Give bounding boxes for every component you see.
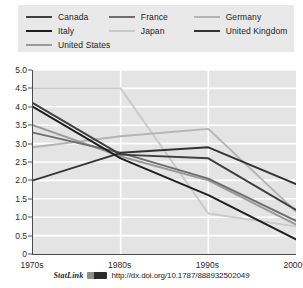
legend-item-italy: Italy	[26, 26, 109, 36]
line-chart-figure: Canada France Germany Italy Japan	[0, 0, 303, 288]
legend-label-canada: Canada	[58, 12, 88, 22]
y-axis-tick-label: 0.5	[15, 231, 27, 241]
plot-container: 00.51.01.52.02.53.03.54.04.55.0 1970s198…	[0, 58, 303, 258]
series-lines	[33, 70, 296, 254]
y-axis-tick-label: 4.0	[15, 102, 27, 112]
legend-label-france: France	[141, 12, 168, 22]
y-axis-tick-label: 3.0	[15, 139, 27, 149]
legend-swatch-united-kingdom	[194, 30, 220, 32]
legend-row: Italy Japan United Kingdom	[26, 24, 290, 38]
legend-item-canada: Canada	[26, 12, 109, 22]
legend-swatch-united-states	[26, 44, 52, 46]
legend-item-united-states: United States	[26, 40, 112, 50]
statlink-url[interactable]: http://dx.doi.org/10.1787/888932502049	[111, 271, 249, 280]
y-axis-tick-label: 2.0	[15, 175, 27, 185]
legend-item-united-kingdom: United Kingdom	[194, 26, 290, 36]
legend-label-italy: Italy	[58, 26, 74, 36]
legend-swatch-italy	[26, 30, 52, 32]
y-axis-tick-label: 4.5	[15, 83, 27, 93]
statlink-footer: StatLink http://dx.doi.org/10.1787/88893…	[0, 266, 303, 284]
legend-label-germany: Germany	[226, 12, 262, 22]
legend-label-united-kingdom: United Kingdom	[226, 26, 288, 36]
legend-item-france: France	[109, 12, 194, 22]
legend-item-germany: Germany	[194, 12, 290, 22]
y-axis-tick-label: 0	[22, 249, 27, 259]
statlink-icon	[87, 272, 107, 279]
y-axis-tick-label: 1.0	[15, 212, 27, 222]
plot-area	[32, 70, 296, 255]
legend-row: Canada France Germany	[26, 10, 290, 24]
series-line-canada	[33, 103, 296, 210]
legend-item-japan: Japan	[109, 26, 194, 36]
y-axis: 00.51.01.52.02.53.03.54.04.55.0	[0, 58, 31, 258]
y-axis-tick-label: 3.5	[15, 120, 27, 130]
legend-swatch-japan	[109, 30, 135, 32]
y-axis-tick-label: 1.5	[15, 194, 27, 204]
legend-swatch-germany	[194, 16, 220, 18]
legend-swatch-canada	[26, 16, 52, 18]
y-axis-tick-label: 2.5	[15, 157, 27, 167]
legend-swatch-france	[109, 16, 135, 18]
y-axis-tick-label: 5.0	[15, 65, 27, 75]
legend-label-japan: Japan	[141, 26, 165, 36]
legend-row: United States	[26, 38, 290, 52]
chart-legend: Canada France Germany Italy Japan	[18, 5, 294, 52]
legend-label-united-states: United States	[58, 40, 110, 50]
statlink-label: StatLink	[53, 271, 83, 280]
